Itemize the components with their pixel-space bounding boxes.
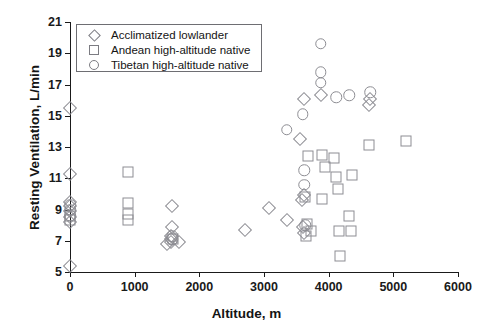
y-tick-label: 19 xyxy=(48,46,62,60)
x-tick xyxy=(135,272,136,277)
x-tick-label: 6000 xyxy=(444,280,472,294)
x-tick xyxy=(458,272,459,277)
y-tick-label: 21 xyxy=(48,15,62,29)
data-point-square xyxy=(317,193,328,204)
x-tick-label: 5000 xyxy=(379,280,407,294)
data-point-diamond xyxy=(63,259,77,273)
data-point-circle xyxy=(300,219,312,231)
data-point-circle xyxy=(364,87,376,99)
data-point-square xyxy=(317,149,328,160)
data-point-diamond xyxy=(314,88,328,102)
data-point-square xyxy=(328,152,339,163)
y-tick-label: 17 xyxy=(48,78,62,92)
y-axis-title: Resting Ventilation, L/min xyxy=(27,28,42,268)
data-point-circle xyxy=(297,108,309,120)
data-point-diamond xyxy=(63,101,77,115)
x-tick-label: 4000 xyxy=(315,280,343,294)
x-tick-label: 0 xyxy=(67,280,74,294)
legend-item: Andean high-altitude native xyxy=(77,43,261,57)
chart-legend: Acclimatized lowlanderAndean high-altitu… xyxy=(76,24,262,72)
data-point-circle xyxy=(64,210,76,222)
y-tick xyxy=(65,241,70,242)
y-tick xyxy=(65,116,70,117)
x-tick-label: 3000 xyxy=(250,280,278,294)
data-point-square xyxy=(123,198,134,209)
data-point-circle xyxy=(298,165,310,177)
y-tick-label: 11 xyxy=(49,171,62,185)
legend-square-icon xyxy=(77,45,111,55)
legend-item-label: Acclimatized lowlander xyxy=(111,29,228,41)
y-tick-label: 5 xyxy=(55,265,62,279)
data-point-square xyxy=(123,167,134,178)
y-tick-label: 9 xyxy=(55,203,62,217)
data-point-square xyxy=(401,135,412,146)
data-point-diamond xyxy=(165,199,179,213)
data-point-circle xyxy=(281,124,293,136)
x-axis-title: Altitude, m xyxy=(0,306,493,321)
x-tick xyxy=(393,272,394,277)
y-axis-line xyxy=(70,22,71,272)
y-tick-label: 7 xyxy=(55,234,62,248)
data-point-circle xyxy=(344,90,356,102)
data-point-square xyxy=(300,192,311,203)
legend-item-label: Tibetan high-altitude native xyxy=(111,59,249,71)
data-point-circle xyxy=(298,179,310,191)
x-tick xyxy=(329,272,330,277)
data-point-circle xyxy=(315,38,327,50)
x-tick xyxy=(264,272,265,277)
data-point-circle xyxy=(315,66,327,78)
scatter-plot-figure: Resting Ventilation, L/min Altitude, m 5… xyxy=(0,0,493,333)
y-tick-label: 13 xyxy=(48,140,62,154)
data-point-square xyxy=(319,162,330,173)
data-point-diamond xyxy=(293,132,307,146)
x-tick-label: 2000 xyxy=(185,280,213,294)
data-point-square xyxy=(123,215,134,226)
y-tick xyxy=(65,53,70,54)
data-point-diamond xyxy=(262,201,276,215)
data-point-square xyxy=(344,210,355,221)
legend-item: Tibetan high-altitude native xyxy=(77,58,261,72)
data-point-diamond xyxy=(280,213,294,227)
y-tick xyxy=(65,22,70,23)
data-point-diamond xyxy=(238,223,252,237)
data-point-square xyxy=(333,184,344,195)
data-point-square xyxy=(302,151,313,162)
y-tick-label: 15 xyxy=(48,109,62,123)
data-point-diamond xyxy=(297,91,311,105)
data-point-square xyxy=(334,226,345,237)
legend-circle-icon xyxy=(77,60,111,70)
data-point-circle xyxy=(315,77,327,89)
y-tick xyxy=(65,85,70,86)
data-point-square xyxy=(345,226,356,237)
data-point-square xyxy=(335,251,346,262)
data-point-circle xyxy=(166,233,178,245)
legend-item: Acclimatized lowlander xyxy=(77,28,261,42)
y-tick xyxy=(65,147,70,148)
data-point-square xyxy=(331,171,342,182)
x-tick-label: 1000 xyxy=(121,280,149,294)
x-tick xyxy=(199,272,200,277)
legend-item-label: Andean high-altitude native xyxy=(111,44,250,56)
data-point-square xyxy=(363,140,374,151)
data-point-circle xyxy=(331,91,343,103)
data-point-square xyxy=(346,170,357,181)
legend-diamond-icon xyxy=(77,31,111,40)
